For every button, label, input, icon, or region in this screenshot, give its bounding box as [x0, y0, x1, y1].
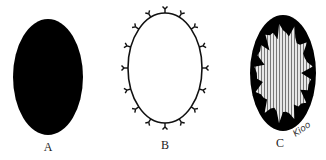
spike-icon	[199, 88, 206, 93]
spike-icon	[124, 43, 131, 48]
ellipse-c	[250, 15, 316, 131]
spike-icon	[199, 43, 206, 48]
spike-icon	[132, 107, 139, 113]
spike-icon	[163, 123, 168, 130]
spike-icon	[191, 107, 198, 113]
spike-icon	[124, 88, 131, 93]
spike-icon	[179, 10, 185, 17]
spike-icon	[179, 119, 185, 126]
label-b: B	[161, 138, 169, 153]
ellipse-a	[13, 19, 83, 135]
spike-icon	[145, 119, 151, 126]
ellipse-b	[122, 7, 209, 130]
spike-icon	[191, 23, 198, 29]
spike-icon	[145, 10, 151, 17]
spike-icon	[163, 7, 168, 14]
spike-icon	[122, 66, 129, 71]
label-a: A	[44, 140, 53, 155]
spike-icon	[202, 66, 209, 71]
spike-icon	[132, 23, 139, 29]
label-c: C	[276, 136, 284, 151]
